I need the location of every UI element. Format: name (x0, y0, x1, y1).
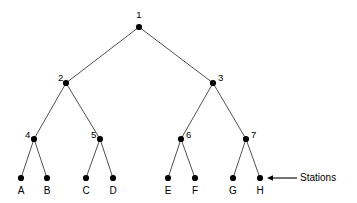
station-node-A[interactable] (18, 175, 24, 181)
node-label-3: 3 (218, 73, 223, 83)
station-node-H[interactable] (257, 175, 263, 181)
tree-edge (168, 139, 181, 178)
station-label-F: F (192, 186, 198, 196)
node-label-7: 7 (251, 130, 256, 140)
annotation-arrow-group (267, 175, 297, 181)
station-label-H: H (256, 186, 263, 196)
node-label-6: 6 (186, 130, 191, 140)
station-node-D[interactable] (110, 175, 116, 181)
tree-edge (213, 83, 246, 139)
edges-group (21, 27, 260, 178)
tree-node-7[interactable] (243, 136, 249, 142)
station-label-G: G (229, 186, 237, 196)
station-node-F[interactable] (192, 175, 198, 181)
tree-edge (246, 139, 260, 178)
station-node-E[interactable] (165, 175, 171, 181)
tree-node-6[interactable] (178, 136, 184, 142)
tree-edge (86, 139, 100, 178)
node-label-1: 1 (136, 10, 141, 20)
station-label-E: E (165, 186, 172, 196)
tree-edge (100, 139, 113, 178)
annotation-arrowhead-icon (267, 175, 273, 181)
tree-node-3[interactable] (210, 80, 216, 86)
station-node-C[interactable] (83, 175, 89, 181)
node-label-4: 4 (25, 130, 30, 140)
station-label-C: C (82, 186, 89, 196)
station-node-G[interactable] (230, 175, 236, 181)
station-label-D: D (109, 186, 116, 196)
tree-edge (181, 139, 195, 178)
tree-node-2[interactable] (63, 80, 69, 86)
node-label-2: 2 (58, 73, 63, 83)
tree-edge (66, 27, 139, 83)
annotation-label-stations: Stations (300, 173, 336, 183)
tree-node-4[interactable] (31, 136, 37, 142)
station-label-A: A (18, 186, 25, 196)
tree-edge (34, 139, 47, 178)
station-node-B[interactable] (44, 175, 50, 181)
tree-edge (34, 83, 66, 139)
tree-diagram: 1234567ABCDEFGHStations (0, 0, 357, 203)
tree-edge (233, 139, 246, 178)
tree-node-5[interactable] (97, 136, 103, 142)
node-label-5: 5 (91, 130, 96, 140)
tree-edge (21, 139, 34, 178)
tree-node-1[interactable] (136, 24, 142, 30)
tree-edge (139, 27, 213, 83)
station-label-B: B (44, 186, 51, 196)
